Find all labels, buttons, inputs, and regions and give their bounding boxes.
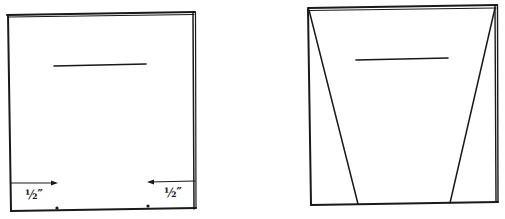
mark-dot: [146, 204, 149, 207]
left-arrow-left: [150, 181, 195, 182]
right-panel: [308, 5, 498, 205]
arrowhead-right-icon: [51, 181, 58, 186]
right-center-line: [356, 58, 448, 60]
right-top-edge: [308, 5, 497, 8]
left-right-edge: [193, 13, 194, 209]
measure-label-left: ½″: [25, 188, 44, 202]
left-side-edge: [8, 15, 11, 211]
left-bottom-edge: [11, 208, 196, 211]
diagonal-fold-right: [450, 8, 495, 203]
left-right-edge-outer: [196, 12, 197, 208]
right-bottom-edge: [311, 202, 498, 205]
diagonal-fold-left: [309, 10, 358, 204]
measure-label-right: ½″: [164, 186, 183, 200]
diagram-canvas: ½″ ½″: [0, 0, 505, 219]
mark-dot: [55, 206, 58, 209]
right-right-edge: [495, 6, 496, 202]
left-center-line: [54, 64, 146, 66]
left-panel: [7, 12, 196, 211]
arrowhead-left-icon: [147, 180, 154, 185]
right-left-edge: [308, 9, 311, 205]
right-right-edge-outer: [498, 5, 499, 202]
